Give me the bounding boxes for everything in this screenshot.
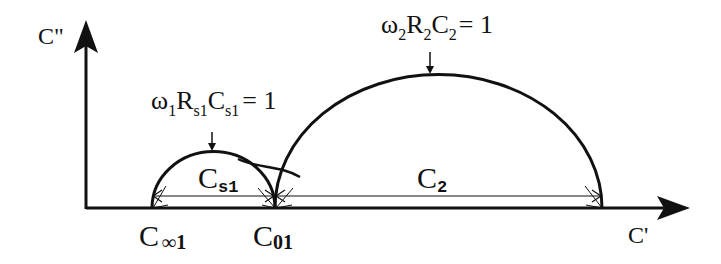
large-arc-condition: ω2R2C2= 1 (381, 10, 493, 43)
small-arc-label: Cs1 (198, 161, 238, 197)
c-01-label: C01 (253, 219, 293, 253)
large-arc-label: C2 (417, 161, 447, 197)
x-axis-label: C' (628, 222, 648, 248)
y-axis (74, 20, 98, 209)
cole-cole-diagram: C" C' ω1Rs1Cs1= 1 ω2R2C2= 1 (0, 0, 721, 264)
large-arc-peak-pointer-icon (426, 52, 434, 74)
small-arc-condition: ω1Rs1Cs1= 1 (151, 86, 276, 119)
small-arc-peak-pointer-icon (208, 132, 216, 151)
connecting-curve (238, 159, 300, 177)
y-axis-label: C" (38, 23, 64, 49)
c-infinity-1-label: C∞1 (139, 219, 186, 253)
